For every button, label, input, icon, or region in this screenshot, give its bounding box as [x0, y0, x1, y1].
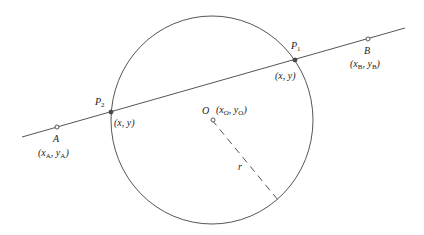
point-p1-marker — [293, 58, 297, 62]
point-a-marker — [55, 125, 59, 129]
point-b-label: B — [364, 45, 370, 56]
point-p2-label: P2 — [94, 96, 105, 109]
point-b-coords: (xB, yB) — [350, 58, 381, 71]
radius-label: r — [238, 161, 242, 172]
point-p2-coords: (x, y) — [114, 117, 135, 129]
radius-line — [212, 120, 278, 200]
point-p1-label: P1 — [290, 40, 301, 53]
point-p1-coords: (x, y) — [275, 70, 296, 82]
point-p2-marker — [109, 110, 113, 114]
center-o-label: O — [202, 105, 209, 116]
point-a-coords: (xA, yA) — [38, 147, 69, 160]
center-o-marker — [211, 118, 215, 122]
center-o-coords: (xO, yO) — [216, 104, 247, 117]
point-b-marker — [366, 37, 370, 41]
line-circle-diagram: A (xA, yA) B (xB, yB) P1 (x, y) P2 (x, y… — [0, 0, 424, 235]
point-a-label: A — [52, 133, 60, 144]
